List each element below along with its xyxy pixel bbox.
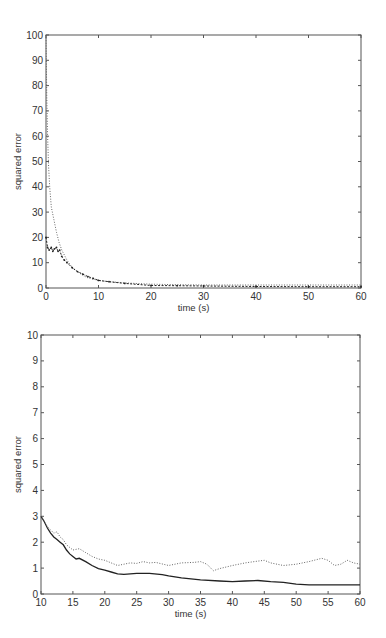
x-tick-label: 40 bbox=[227, 597, 239, 608]
data-point bbox=[87, 276, 89, 278]
data-point bbox=[255, 286, 257, 288]
x-tick-label: 35 bbox=[195, 597, 207, 608]
data-point bbox=[108, 281, 110, 283]
data-point bbox=[57, 250, 59, 252]
y-tick-label: 90 bbox=[32, 55, 44, 66]
y-tick-label: 4 bbox=[32, 485, 38, 496]
series-solid bbox=[41, 516, 360, 585]
x-tick-label: 20 bbox=[99, 597, 111, 608]
series-dotted bbox=[46, 35, 361, 285]
x-axis-label: time (s) bbox=[175, 608, 207, 619]
y-tick-label: 8 bbox=[32, 381, 38, 392]
x-tick-label: 60 bbox=[354, 597, 366, 608]
y-axis-label: squared error bbox=[12, 133, 23, 190]
plot-frame bbox=[46, 35, 361, 288]
data-point bbox=[98, 280, 100, 282]
data-point bbox=[92, 277, 94, 279]
y-axis-label: squared error bbox=[12, 436, 23, 493]
data-point bbox=[82, 273, 84, 275]
y-tick-label: 80 bbox=[32, 80, 44, 91]
y-tick-label: 70 bbox=[32, 105, 44, 116]
x-tick-label: 50 bbox=[291, 597, 303, 608]
data-point bbox=[176, 285, 178, 287]
y-tick-label: 9 bbox=[32, 355, 38, 366]
y-tick-label: 50 bbox=[32, 156, 44, 167]
y-tick-label: 30 bbox=[32, 207, 44, 218]
y-tick-label: 1 bbox=[32, 563, 38, 574]
y-tick-label: 40 bbox=[32, 181, 44, 192]
bottom-plot: 1015202530354045505560012345678910time (… bbox=[12, 330, 366, 620]
data-point bbox=[48, 249, 50, 251]
x-tick-label: 55 bbox=[323, 597, 335, 608]
data-point bbox=[66, 262, 68, 264]
x-tick-label: 15 bbox=[67, 597, 79, 608]
x-tick-label: 45 bbox=[259, 597, 271, 608]
y-tick-label: 0 bbox=[37, 283, 43, 294]
data-point bbox=[77, 271, 79, 273]
figure: 01020304050600102030405060708090100time … bbox=[0, 0, 386, 638]
data-point bbox=[45, 237, 47, 239]
x-axis-label: time (s) bbox=[178, 302, 210, 313]
x-tick-label: 40 bbox=[250, 291, 262, 302]
data-point bbox=[54, 248, 56, 250]
x-tick-label: 20 bbox=[145, 291, 157, 302]
x-tick-label: 60 bbox=[355, 291, 367, 302]
data-point bbox=[61, 255, 63, 257]
series-dotted bbox=[41, 516, 360, 570]
data-point bbox=[150, 285, 152, 287]
y-tick-label: 10 bbox=[32, 257, 44, 268]
y-tick-label: 10 bbox=[27, 330, 39, 341]
y-tick-label: 7 bbox=[32, 407, 38, 418]
x-tick-label: 30 bbox=[163, 597, 175, 608]
x-tick-label: 50 bbox=[303, 291, 315, 302]
data-point bbox=[124, 283, 126, 285]
data-point bbox=[360, 286, 362, 288]
y-tick-label: 2 bbox=[32, 537, 38, 548]
data-point bbox=[63, 259, 65, 261]
y-tick-label: 3 bbox=[32, 511, 38, 522]
data-point bbox=[47, 247, 49, 249]
x-tick-label: 30 bbox=[198, 291, 210, 302]
data-point bbox=[50, 247, 52, 249]
y-tick-label: 6 bbox=[32, 433, 38, 444]
y-tick-label: 5 bbox=[32, 459, 38, 470]
data-point bbox=[203, 285, 205, 287]
plot-frame bbox=[41, 335, 360, 594]
y-tick-label: 0 bbox=[32, 589, 38, 600]
top-plot: 01020304050600102030405060708090100time … bbox=[12, 30, 367, 314]
data-point bbox=[59, 249, 61, 251]
series-solid-markers bbox=[46, 237, 361, 286]
x-tick-label: 25 bbox=[131, 597, 143, 608]
data-point bbox=[56, 247, 58, 249]
y-tick-label: 60 bbox=[32, 131, 44, 142]
y-tick-label: 20 bbox=[32, 232, 44, 243]
x-tick-label: 0 bbox=[43, 291, 49, 302]
data-point bbox=[71, 267, 73, 269]
data-point bbox=[52, 250, 54, 252]
data-point bbox=[308, 286, 310, 288]
y-tick-label: 100 bbox=[26, 30, 43, 41]
x-tick-label: 10 bbox=[93, 291, 105, 302]
